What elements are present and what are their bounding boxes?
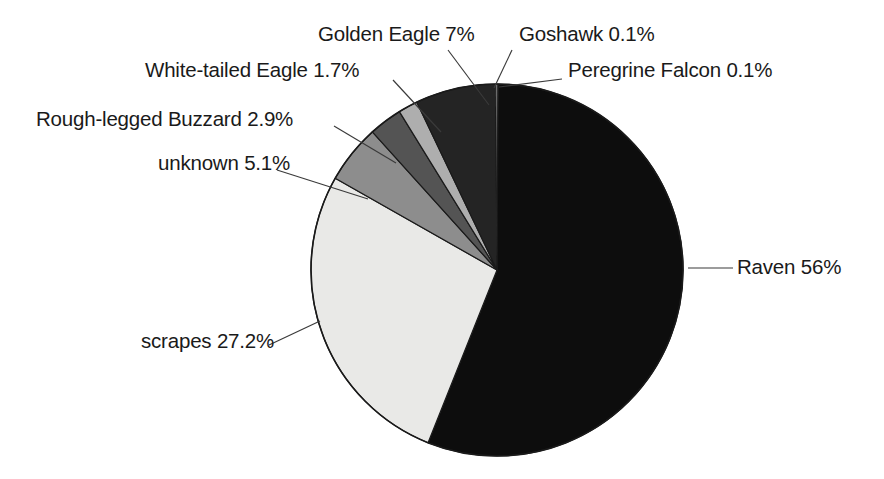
slice-label-goshawk: Goshawk 0.1% (519, 24, 654, 45)
slice-label-peregrine-falcon: Peregrine Falcon 0.1% (568, 60, 772, 81)
leader-line-scrapes (269, 321, 320, 345)
slice-label-unknown: unknown 5.1% (158, 153, 290, 174)
slice-label-raven: Raven 56% (737, 257, 841, 278)
slice-label-rough-legged-buzzard: Rough-legged Buzzard 2.9% (36, 109, 293, 130)
slice-label-white-tailed-eagle: White-tailed Eagle 1.7% (145, 60, 359, 81)
leader-line-goshawk (494, 50, 512, 88)
slice-label-scrapes: scrapes 27.2% (141, 331, 274, 352)
pie-slices-group (311, 84, 683, 456)
slice-label-golden-eagle: Golden Eagle 7% (318, 24, 475, 45)
pie-chart-figure: Golden Eagle 7% Goshawk 0.1% White-taile… (0, 0, 884, 479)
leader-line-peregrine-falcon (499, 79, 562, 87)
